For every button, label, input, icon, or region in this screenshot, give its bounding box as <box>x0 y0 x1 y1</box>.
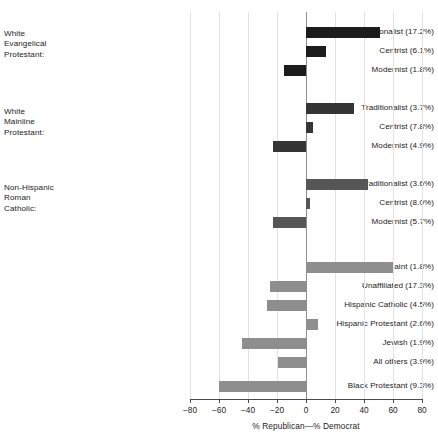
x-tick-label: 80 <box>402 405 438 415</box>
x-tick <box>393 399 394 403</box>
gridline-80 <box>422 12 423 399</box>
bar <box>278 357 306 368</box>
group-header-line: Roman <box>4 193 82 203</box>
bar <box>306 103 354 114</box>
group-header-line: Protestant: <box>4 128 82 138</box>
x-axis-title: % Republican—% Democrat <box>190 421 422 431</box>
x-tick <box>364 399 365 403</box>
x-tick <box>190 399 191 403</box>
bar <box>306 262 393 273</box>
gridline-60 <box>393 12 394 399</box>
bar <box>270 281 306 292</box>
group-header-white-evangelical-protestant: WhiteEvangelicalProtestant: <box>4 29 82 60</box>
group-header-line: White <box>4 29 82 39</box>
bar <box>306 46 326 57</box>
x-tick <box>306 399 307 403</box>
bar <box>306 319 318 330</box>
group-header-non-hispanic-roman-catholic: Non-HispanicRomanCatholic: <box>4 183 82 214</box>
bar <box>306 198 310 209</box>
bar <box>267 300 306 311</box>
bar <box>273 141 306 152</box>
bar <box>242 338 306 349</box>
x-tick <box>422 399 423 403</box>
plot-area <box>190 12 422 399</box>
gridline-40 <box>364 12 365 399</box>
group-header-line: Non-Hispanic <box>4 183 82 193</box>
group-header-line: Catholic: <box>4 204 82 214</box>
bar <box>284 65 306 76</box>
group-header-white-mainline-protestant: WhiteMainlineProtestant: <box>4 107 82 138</box>
x-tick <box>219 399 220 403</box>
gridline--80 <box>190 12 191 399</box>
gridline--60 <box>219 12 220 399</box>
group-header-line: White <box>4 107 82 117</box>
group-header-line: Protestant: <box>4 50 82 60</box>
bar <box>273 217 306 228</box>
x-tick <box>335 399 336 403</box>
x-tick <box>277 399 278 403</box>
bar <box>306 179 368 190</box>
chart-figure: WhiteEvangelicalProtestant: WhiteMainlin… <box>0 0 438 440</box>
x-tick <box>248 399 249 403</box>
bar <box>306 27 380 38</box>
gridline-20 <box>335 12 336 399</box>
group-header-line: Evangelical <box>4 39 82 49</box>
bar <box>306 122 313 133</box>
group-header-line: Mainline <box>4 117 82 127</box>
x-axis: −80−60−40−20020406080 <box>190 399 422 401</box>
bar <box>219 381 306 392</box>
